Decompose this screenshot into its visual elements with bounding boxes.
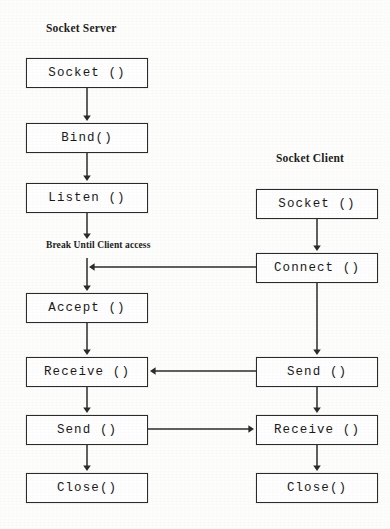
- node-server-receive-label: Receive (): [44, 365, 130, 379]
- server-column-heading: Socket Server: [46, 22, 117, 34]
- break-until-client-access-label: Break Until Client access: [46, 240, 150, 250]
- node-client-receive-label: Receive (): [274, 423, 360, 437]
- node-client-connect[interactable]: Connect (): [256, 253, 378, 283]
- node-server-close[interactable]: Close(): [26, 473, 148, 503]
- node-server-accept-label: Accept (): [48, 301, 125, 315]
- node-client-send-label: Send (): [287, 365, 347, 379]
- node-client-socket[interactable]: Socket (): [256, 189, 378, 219]
- node-client-close[interactable]: Close(): [256, 473, 378, 503]
- node-server-listen-label: Listen (): [48, 191, 125, 205]
- node-server-listen[interactable]: Listen (): [26, 183, 148, 213]
- socket-flowchart: Socket Server Socket Client Break Until …: [0, 0, 390, 529]
- node-server-accept[interactable]: Accept (): [26, 293, 148, 323]
- node-server-bind-label: Bind(): [61, 131, 113, 145]
- node-server-socket-label: Socket (): [48, 66, 125, 80]
- node-server-send-label: Send (): [57, 423, 117, 437]
- node-server-send[interactable]: Send (): [26, 415, 148, 445]
- node-client-connect-label: Connect (): [274, 261, 360, 275]
- node-server-bind[interactable]: Bind(): [26, 123, 148, 153]
- node-client-socket-label: Socket (): [278, 197, 355, 211]
- node-client-receive[interactable]: Receive (): [256, 415, 378, 445]
- node-server-close-label: Close(): [57, 481, 117, 495]
- client-column-heading: Socket Client: [276, 152, 344, 164]
- node-server-receive[interactable]: Receive (): [26, 357, 148, 387]
- node-client-close-label: Close(): [287, 481, 347, 495]
- node-client-send[interactable]: Send (): [256, 357, 378, 387]
- node-server-socket[interactable]: Socket (): [26, 58, 148, 88]
